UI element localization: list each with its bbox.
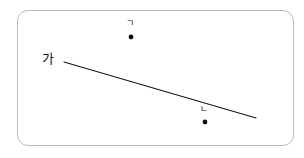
point-n-dot [203,120,208,125]
geometry-canvas [0,0,304,158]
line-ga-label: 가 [42,52,54,65]
point-g-dot [129,35,134,40]
figure-root: ㄱ ㄴ 가 [0,0,304,158]
point-g-label: ㄱ [126,19,134,28]
line-ga [64,62,256,118]
point-n-label: ㄴ [200,105,208,114]
